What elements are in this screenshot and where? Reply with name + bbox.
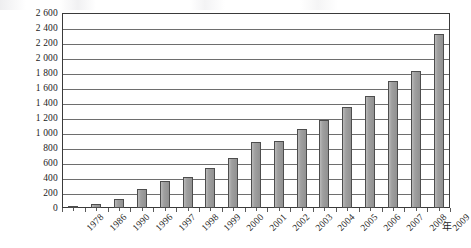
x-axis-tick-mark [256, 208, 257, 211]
bar [114, 199, 124, 208]
y-axis-tick-label: 1 400 [4, 99, 58, 109]
x-axis-tick-label: 2009 [450, 212, 471, 233]
y-axis-tick-label: 1 000 [4, 129, 58, 139]
bar [365, 96, 375, 208]
x-axis-tick-mark [233, 208, 234, 211]
bar [388, 81, 398, 208]
x-axis-tick-label: 1996 [154, 212, 175, 233]
bar [183, 177, 193, 208]
x-axis-tick-mark [279, 208, 280, 211]
x-axis-tick-label: 1978 [85, 212, 106, 233]
x-axis-tick-label: 2005 [359, 212, 380, 233]
y-axis-tick-labels: 2 6002 4002 2002 0001 8001 6001 4001 200… [0, 0, 58, 248]
x-axis-tick-label: 2003 [313, 212, 334, 233]
y-axis-tick-label: 2 400 [4, 24, 58, 34]
bar [297, 129, 307, 209]
bar [228, 158, 238, 208]
x-axis-title: 年 [442, 222, 452, 232]
x-axis-tick-mark [370, 208, 371, 211]
x-axis-tick-mark [119, 208, 120, 211]
bar [251, 142, 261, 208]
bar [434, 34, 444, 208]
x-axis-tick-mark [188, 208, 189, 211]
y-axis-tick-label: 400 [4, 174, 58, 184]
x-axis-tick-label: 1990 [131, 212, 152, 233]
x-axis-tick-mark [73, 208, 74, 211]
bar [342, 107, 352, 208]
y-axis-tick-label: 2 200 [4, 39, 58, 49]
x-axis-tick-label: 2002 [290, 212, 311, 233]
y-axis-tick-label: 2 000 [4, 54, 58, 64]
x-axis-tick-label: 2001 [268, 212, 289, 233]
x-axis-tick-mark [324, 208, 325, 211]
bar [274, 141, 284, 209]
x-axis-tick-label: 1999 [222, 212, 243, 233]
y-axis-tick-label: 1 600 [4, 84, 58, 94]
bar [160, 181, 170, 208]
bar [205, 168, 215, 208]
x-axis-tick-label: 1986 [108, 212, 129, 233]
bar [319, 120, 329, 208]
y-axis-tick-label: 800 [4, 144, 58, 154]
x-axis-tick-mark [165, 208, 166, 211]
y-axis-tick-label: 1 200 [4, 114, 58, 124]
x-axis-tick-label: 2006 [382, 212, 403, 233]
x-axis-tick-labels: 1978198619901996199719981999200020012002… [0, 212, 463, 248]
y-axis-tick-label: 2 600 [4, 9, 58, 19]
x-axis-tick-label: 2004 [336, 212, 357, 233]
x-axis-tick-mark [210, 208, 211, 211]
x-axis-tick-mark [416, 208, 417, 211]
x-axis-tick-mark [439, 208, 440, 211]
x-axis-tick-label: 1997 [176, 212, 197, 233]
x-axis-tick-mark [142, 208, 143, 211]
x-axis-tick-label: 1998 [199, 212, 220, 233]
x-axis-tick-mark [347, 208, 348, 211]
y-axis-tick-label: 1 800 [4, 69, 58, 79]
x-axis-tick-label: 2007 [405, 212, 426, 233]
x-axis-tick-mark [393, 208, 394, 211]
bars-layer [62, 13, 450, 208]
x-axis-tick-mark [302, 208, 303, 211]
bar [411, 71, 421, 208]
x-axis-tick-mark [96, 208, 97, 211]
x-axis-tick-label: 2000 [245, 212, 266, 233]
bar [137, 189, 147, 208]
y-axis-tick-label: 200 [4, 189, 58, 199]
y-axis-tick-label: 600 [4, 159, 58, 169]
